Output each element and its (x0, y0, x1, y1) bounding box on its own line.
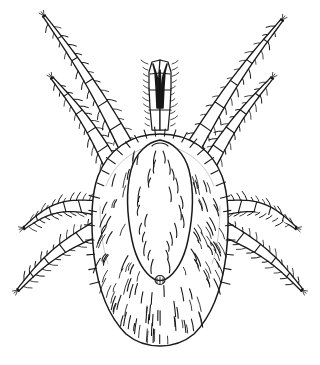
figure-root (0, 0, 320, 365)
leg-4-right-bristle-1 (235, 222, 236, 228)
leg-1-left-claw-2 (44, 10, 45, 16)
body-seta-51 (153, 329, 154, 343)
body-seta-72 (152, 323, 153, 335)
mite-illustration (0, 0, 320, 365)
leg-2-right-bristle-11 (230, 117, 234, 118)
margin-seta-1 (225, 254, 233, 255)
margin-seta-22 (87, 254, 95, 255)
leg-4-left-bristle-2 (81, 225, 82, 230)
body-seta-20 (153, 314, 154, 326)
leg-4-left-bristle-10 (53, 245, 54, 249)
margin-seta-45 (225, 225, 233, 226)
leg-4-right-bristle-3 (242, 227, 243, 231)
chelicera-center-left (158, 70, 161, 106)
